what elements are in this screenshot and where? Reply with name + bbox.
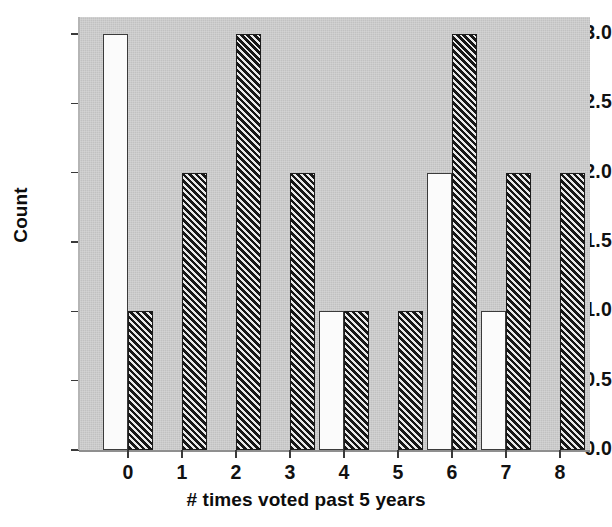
x-axis-tick-label: 5 — [378, 461, 418, 484]
x-axis-tick-label: 8 — [540, 461, 580, 484]
bar-hatched-3 — [290, 173, 315, 450]
x-axis-line — [79, 450, 590, 452]
x-axis-title: # times voted past 5 years — [0, 489, 612, 511]
y-axis-line — [78, 17, 80, 450]
x-axis-tick-label: 6 — [432, 461, 472, 484]
x-axis-tick — [451, 450, 453, 458]
plot-panel — [79, 17, 590, 450]
x-axis-tick-label: 0 — [108, 461, 148, 484]
bar-white-7 — [481, 311, 506, 450]
x-axis-tick — [559, 450, 561, 458]
bar-hatched-7 — [506, 173, 531, 450]
x-axis-tick-label: 7 — [486, 461, 526, 484]
bar-white-4 — [319, 311, 344, 450]
bar-hatched-6 — [452, 34, 477, 450]
x-axis-tick-label: 2 — [216, 461, 256, 484]
bar-hatched-8 — [560, 173, 585, 450]
bar-hatched-2 — [236, 34, 261, 450]
bar-white-0 — [103, 34, 128, 450]
bar-white-6 — [427, 173, 452, 450]
x-axis-tick — [343, 450, 345, 458]
x-axis-tick-label: 4 — [324, 461, 364, 484]
x-axis-tick — [127, 450, 129, 458]
bar-hatched-0 — [128, 311, 153, 450]
x-axis-tick — [505, 450, 507, 458]
bar-hatched-1 — [182, 173, 207, 450]
x-axis-tick-label: 1 — [162, 461, 202, 484]
x-axis-tick — [289, 450, 291, 458]
y-axis-title: Count — [10, 160, 32, 270]
x-axis-tick — [235, 450, 237, 458]
x-axis-tick-label: 3 — [270, 461, 310, 484]
bar-hatched-4 — [344, 311, 369, 450]
bar-chart-figure: Count 0.00.51.01.52.02.53.0 012345678 # … — [0, 0, 612, 527]
x-axis-tick — [397, 450, 399, 458]
bar-hatched-5 — [398, 311, 423, 450]
x-axis-tick — [181, 450, 183, 458]
